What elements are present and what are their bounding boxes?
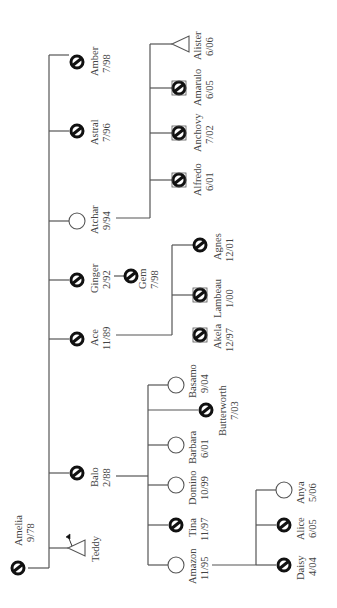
gem-deceased-icon xyxy=(125,270,137,282)
daisy-date: 4/04 xyxy=(307,557,318,576)
anchovy-date: 7/02 xyxy=(204,125,215,144)
atchar-circle-icon xyxy=(69,213,85,229)
gem-date: 7/98 xyxy=(149,270,160,289)
barbara-date: 6/01 xyxy=(199,439,210,458)
amarulo-date: 6/05 xyxy=(204,80,215,99)
anya-date: 5/06 xyxy=(307,483,318,502)
ace-name: Ace xyxy=(89,329,100,346)
amarulo-name: Amarulo xyxy=(192,69,203,106)
teddy-name: Teddy xyxy=(90,535,101,562)
butterworth-name: Butterworth xyxy=(217,385,228,436)
gem-name: Gem xyxy=(137,269,148,289)
anchovy-deceased-icon xyxy=(172,126,186,140)
amazon-name: Amazon xyxy=(187,548,198,584)
balo-deceased-icon xyxy=(71,467,83,479)
astral-name: Astral xyxy=(89,119,100,145)
pedigree-diagram: Amelia 9/78 Teddy Balo 2/88 Ace 11/89 Gi… xyxy=(0,0,337,608)
alfredo-deceased-icon xyxy=(172,173,186,187)
astral-deceased-icon xyxy=(71,125,83,137)
barbara-circle-icon xyxy=(168,437,184,453)
ace-date: 11/89 xyxy=(101,326,112,350)
teddy-triangle-icon xyxy=(66,534,85,556)
alister-name: Alister xyxy=(192,31,203,60)
agnes-date: 12/01 xyxy=(224,238,235,262)
agnes-deceased-icon xyxy=(194,239,206,251)
amber-name: Amber xyxy=(89,46,100,76)
ginger-date: 2/92 xyxy=(101,270,112,289)
daisy-name: Daisy xyxy=(295,555,306,580)
butterworth-date: 7/03 xyxy=(229,401,240,420)
butterworth-deceased-icon xyxy=(200,404,212,416)
amber-date: 7/98 xyxy=(101,54,112,73)
atchar-date: 9/94 xyxy=(101,211,112,230)
ginger-deceased-icon xyxy=(71,274,83,286)
balo-date: 2/88 xyxy=(101,468,112,487)
lambeau-name: Lambeau xyxy=(212,278,223,318)
amazon-date: 11/95 xyxy=(199,556,210,580)
alfredo-date: 6/01 xyxy=(204,172,215,191)
alister-date: 6/06 xyxy=(204,37,215,56)
domino-date: 10/99 xyxy=(199,476,210,500)
akela-date: 12/97 xyxy=(224,328,235,352)
lambeau-deceased-icon xyxy=(193,288,207,302)
balo-name: Balo xyxy=(89,467,100,487)
alister-triangle-icon xyxy=(172,36,189,52)
tina-deceased-icon xyxy=(170,519,182,531)
tina-name: Tina xyxy=(187,518,198,537)
daisy-deceased-icon xyxy=(278,559,290,571)
anchovy-name: Anchovy xyxy=(192,113,203,152)
anya-name: Anya xyxy=(295,481,306,504)
pedigree-lines xyxy=(28,44,276,568)
basamo-date: 9/04 xyxy=(199,374,210,393)
alice-deceased-icon xyxy=(278,519,290,531)
domino-circle-icon xyxy=(168,477,184,493)
basamo-circle-icon xyxy=(168,377,184,393)
alfredo-name: Alfredo xyxy=(192,163,203,196)
amazon-circle-icon xyxy=(168,557,184,573)
alice-date: 6/05 xyxy=(307,519,318,538)
ace-deceased-icon xyxy=(71,333,83,345)
amelia-name: Amelia xyxy=(13,515,24,546)
lambeau-date: 1/00 xyxy=(224,289,235,308)
agnes-name: Agnes xyxy=(212,233,223,260)
domino-name: Domino xyxy=(187,471,198,505)
amarulo-deceased-icon xyxy=(172,81,186,95)
astral-date: 7/96 xyxy=(101,123,112,142)
alice-name: Alice xyxy=(295,517,306,540)
atchar-name: Atchar xyxy=(89,205,100,234)
basamo-name: Basamo xyxy=(187,364,198,398)
amelia-deceased-icon xyxy=(12,562,24,574)
ginger-name: Ginger xyxy=(89,263,100,293)
tina-date: 11/97 xyxy=(199,517,210,541)
akela-name: Akela xyxy=(212,324,223,349)
amber-deceased-icon xyxy=(71,56,83,68)
barbara-name: Barbara xyxy=(187,430,198,464)
akela-deceased-icon xyxy=(193,328,207,342)
amelia-date: 9/78 xyxy=(25,523,36,542)
anya-circle-icon xyxy=(276,482,292,498)
